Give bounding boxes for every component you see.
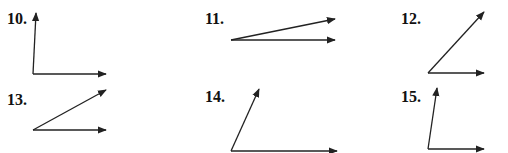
ray-arrow (231, 19, 335, 40)
angle-figure-11 (231, 19, 335, 40)
figure-label-11: 11. (205, 11, 224, 27)
ray-arrow (231, 89, 259, 151)
angle-figure-14 (231, 89, 337, 151)
angle-figure-13 (33, 90, 106, 130)
ray-arrow (428, 12, 484, 73)
figure-label-15: 15. (401, 89, 421, 105)
figure-label-14: 14. (205, 89, 225, 105)
ray-arrow (33, 90, 106, 130)
figure-label-10: 10. (7, 11, 27, 27)
ray-arrow (33, 13, 36, 74)
figure-label-13: 13. (7, 92, 27, 108)
angle-figure-15 (428, 88, 484, 149)
angle-figure-12 (428, 12, 484, 73)
angles-canvas (0, 0, 508, 153)
ray-arrow (428, 88, 437, 149)
figure-label-12: 12. (401, 11, 421, 27)
angle-figure-10 (33, 13, 106, 74)
